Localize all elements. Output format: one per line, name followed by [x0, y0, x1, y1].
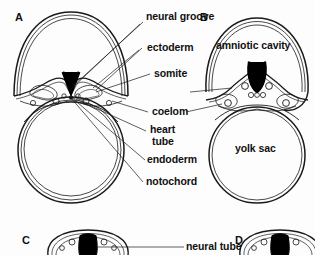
figure-canvas: A B C D neural groove ectoderm somite co…	[0, 0, 315, 255]
label-somite: somite	[154, 68, 187, 80]
label-coelom: coelom	[152, 106, 188, 118]
panel-a-graphic	[14, 12, 150, 203]
label-neural-groove: neural groove	[146, 11, 214, 23]
panel-d-graphic	[240, 230, 315, 255]
panel-letter-a: A	[15, 11, 23, 23]
label-notochord: notochord	[146, 176, 197, 188]
label-amniotic-cavity: amniotic cavity	[216, 40, 290, 52]
label-neural-tube: neural tube	[186, 241, 242, 253]
panel-letter-c: C	[22, 234, 30, 246]
label-heart-tube-line2: tube	[152, 136, 174, 148]
label-heart-tube-line1: heart	[150, 124, 175, 136]
label-ectoderm: ectoderm	[147, 42, 193, 54]
label-endoderm: endoderm	[147, 154, 197, 166]
label-yolk-sac: yolk sac	[235, 143, 276, 155]
panel-c-graphic	[48, 230, 184, 255]
